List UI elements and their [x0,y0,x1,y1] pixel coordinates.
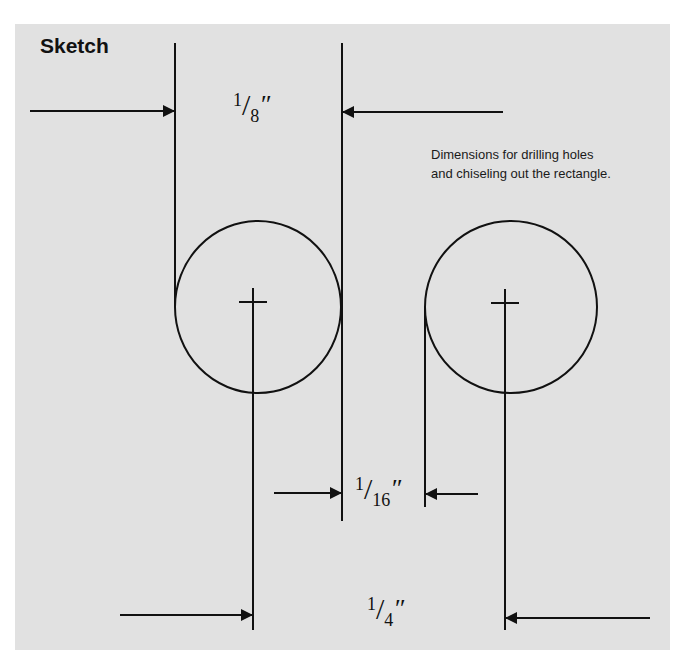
dimension-numerator: 1 [233,90,242,110]
inch-mark: ″ [390,474,401,503]
dimension-denominator: 4 [384,610,393,630]
left-hole-circle [175,221,341,393]
dimension-denominator: 8 [250,106,259,126]
inch-mark: ″ [393,594,404,623]
dimension-label-1-16: 1/16″ [355,472,401,511]
right-hole-circle [425,221,597,393]
dimension-denominator: 16 [372,490,390,510]
dimension-numerator: 1 [367,594,376,614]
dimension-numerator: 1 [355,474,364,494]
inch-mark: ″ [259,90,270,119]
dimension-label-1-4: 1/4″ [367,592,404,631]
drilling-diagram [0,0,682,656]
dimension-label-1-8: 1/8″ [233,88,270,127]
